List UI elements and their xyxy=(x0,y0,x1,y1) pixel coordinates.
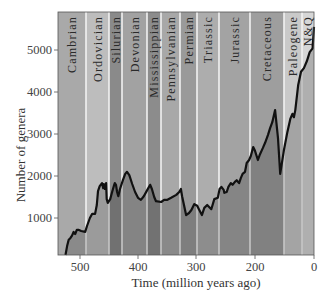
period-label: Permian xyxy=(182,16,196,64)
x-axis-title: Time (million years ago) xyxy=(131,275,260,290)
y-tick-label: 1000 xyxy=(27,211,52,225)
period-label: Pennsylvanian xyxy=(164,16,178,102)
period-label: Cretaceous xyxy=(260,16,274,81)
y-tick-label: 3000 xyxy=(27,127,52,141)
period-label: Triassic xyxy=(201,16,215,63)
x-tick-label: 400 xyxy=(129,260,148,274)
x-tick-label: 500 xyxy=(71,260,90,274)
period-label: Mississippian xyxy=(147,16,161,98)
period-label: Paleogene xyxy=(286,16,300,76)
y-tick-label: 4000 xyxy=(27,85,52,99)
period-label: Jurassic xyxy=(228,16,242,64)
y-axis-title: Number of genera xyxy=(13,107,28,202)
y-tick-label: 5000 xyxy=(27,43,52,57)
period-label: Silurian xyxy=(109,16,123,64)
x-tick-label: 300 xyxy=(187,260,206,274)
chart: CambrianOrdovicianSilurianDevonianMissis… xyxy=(0,0,327,294)
period-label: Cambrian xyxy=(65,16,79,73)
x-axis: 5004003002000 xyxy=(71,255,318,274)
y-tick-label: 2000 xyxy=(27,169,52,183)
x-tick-label: 200 xyxy=(246,260,265,274)
y-axis: 10002000300040005000 xyxy=(27,43,58,225)
x-tick-label: 0 xyxy=(311,260,317,274)
period-label: Devonian xyxy=(128,16,142,72)
period-label: Ordovician xyxy=(91,16,105,82)
